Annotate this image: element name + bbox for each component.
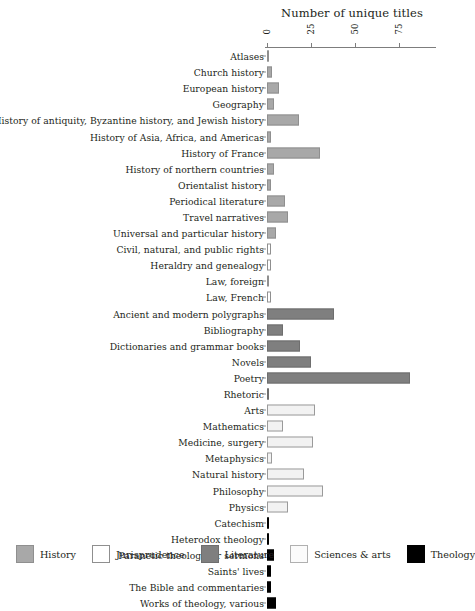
chart-row: Saints' lives [0, 563, 436, 579]
chart-row: Heraldry and genealogy [0, 257, 436, 273]
bar[interactable] [267, 51, 269, 62]
bar[interactable] [267, 582, 271, 593]
x-axis-title: Number of unique titles [268, 6, 436, 20]
bar[interactable] [267, 453, 272, 464]
bar[interactable] [267, 244, 271, 255]
y-axis-tick [262, 538, 266, 539]
y-axis-tick [262, 88, 266, 89]
category-label: Law, French [206, 292, 264, 303]
category-label: Philosophy [213, 485, 264, 496]
category-label: Dictionaries and grammar books [110, 340, 264, 351]
category-label: Catechism [214, 517, 264, 528]
chart-row: Bibliography [0, 322, 436, 338]
bar[interactable] [267, 67, 272, 78]
chart-row: History of Asia, Africa, and Americas [0, 128, 436, 144]
category-label: Physics [229, 501, 264, 512]
category-label: European history [183, 83, 264, 94]
bar[interactable] [267, 228, 276, 239]
category-label: Novels [232, 356, 264, 367]
category-label: Church history [194, 67, 264, 78]
category-label: Heraldry and genealogy [150, 260, 264, 271]
bar[interactable] [267, 195, 285, 206]
bar[interactable] [267, 324, 283, 335]
y-axis-tick [262, 587, 266, 588]
y-axis-tick [262, 571, 266, 572]
bar[interactable] [267, 533, 269, 544]
y-axis-tick [262, 152, 266, 153]
bar[interactable] [267, 99, 274, 110]
bar[interactable] [267, 566, 271, 577]
chart-row: History of antiquity, Byzantine history,… [0, 112, 436, 128]
bar[interactable] [267, 598, 276, 609]
legend-item[interactable]: Theology [407, 545, 475, 563]
chart-row: Atlases [0, 48, 436, 64]
y-axis-tick [262, 410, 266, 411]
y-axis-tick [262, 377, 266, 378]
category-label: Metaphysics [205, 453, 264, 464]
bar[interactable] [267, 389, 269, 400]
y-axis-tick [262, 522, 266, 523]
y-axis-tick [262, 506, 266, 507]
category-label: Periodical literature [169, 195, 264, 206]
bar[interactable] [267, 501, 288, 512]
category-label: History of Asia, Africa, and Americas [90, 131, 264, 142]
legend-item[interactable]: Sciences & arts [290, 545, 391, 563]
bar[interactable] [267, 308, 334, 319]
bar[interactable] [267, 485, 323, 496]
legend-swatch [407, 545, 425, 563]
chart-row: Metaphysics [0, 450, 436, 466]
x-axis-tick-label: 0 [263, 29, 272, 34]
bar[interactable] [267, 469, 304, 480]
bar[interactable] [267, 276, 269, 287]
bar[interactable] [267, 421, 283, 432]
chart-row: Periodical literature [0, 193, 436, 209]
chart-row: Law, foreign [0, 273, 436, 289]
bar[interactable] [267, 260, 271, 271]
chart-row: Ancient and modern polygraphs [0, 306, 436, 322]
chart-row: Universal and particular history [0, 225, 436, 241]
bar[interactable] [267, 356, 311, 367]
bar[interactable] [267, 372, 410, 383]
x-axis-tick-label: 50 [351, 24, 360, 35]
y-axis-tick [262, 136, 266, 137]
plot-area: AtlasesChurch historyEuropean historyGeo… [0, 48, 436, 536]
y-axis-tick [262, 603, 266, 604]
chart-row: Church history [0, 64, 436, 80]
bar[interactable] [267, 163, 274, 174]
bar[interactable] [267, 147, 320, 158]
legend-item[interactable]: History [16, 545, 76, 563]
category-label: History of France [181, 147, 264, 158]
legend-item[interactable]: Literature [201, 545, 275, 563]
bar[interactable] [267, 211, 288, 222]
bar[interactable] [267, 131, 271, 142]
category-label: Geography [213, 99, 265, 110]
y-axis-tick [262, 426, 266, 427]
category-label: Orientalist history [178, 179, 264, 190]
y-axis-tick [262, 297, 266, 298]
bar[interactable] [267, 179, 271, 190]
y-axis-tick [262, 442, 266, 443]
x-axis-tick-label: 75 [395, 24, 404, 35]
y-axis-tick [262, 458, 266, 459]
bar[interactable] [267, 517, 269, 528]
chart-row: History of northern countries [0, 161, 436, 177]
chart-row: Geography [0, 96, 436, 112]
chart-legend: HistoryJurisprudenceLiteratureSciences &… [0, 545, 436, 563]
bar[interactable] [267, 405, 315, 416]
chart-row: Dictionaries and grammar books [0, 338, 436, 354]
legend-label: Theology [431, 549, 475, 560]
chart-row: Poetry [0, 370, 436, 386]
bar[interactable] [267, 83, 279, 94]
y-axis-tick [262, 394, 266, 395]
bar[interactable] [267, 292, 271, 303]
category-label: Mathematics [203, 421, 264, 432]
legend-swatch [92, 545, 110, 563]
bar[interactable] [267, 437, 313, 448]
y-axis-tick [262, 56, 266, 57]
chart-row: Travel narratives [0, 209, 436, 225]
legend-item[interactable]: Jurisprudence [92, 545, 185, 563]
category-label: History of antiquity, Byzantine history,… [0, 115, 264, 126]
bar[interactable] [267, 340, 300, 351]
y-axis-tick [262, 168, 266, 169]
bar[interactable] [267, 115, 299, 126]
